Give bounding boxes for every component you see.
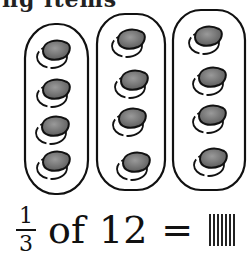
fraction: 1 3 xyxy=(16,205,36,255)
group-2 xyxy=(97,14,165,190)
tally-mark xyxy=(229,214,231,246)
fraction-denominator: 3 xyxy=(19,231,33,255)
tally-mark xyxy=(233,214,235,246)
of-word: of xyxy=(48,208,85,252)
tally-mark xyxy=(225,214,227,246)
equals-sign: = xyxy=(161,208,193,252)
equation: 1 3 of 12 = xyxy=(16,200,235,260)
group-1 xyxy=(25,24,88,194)
group-3 xyxy=(173,10,245,190)
total-number: 12 xyxy=(99,208,147,252)
tally-mark xyxy=(213,214,215,246)
grouped-leaves-illustration xyxy=(0,0,248,200)
tally-mark xyxy=(221,214,223,246)
fraction-numerator: 1 xyxy=(16,205,36,231)
tally-marks-answer xyxy=(209,214,235,246)
tally-mark xyxy=(217,214,219,246)
tally-mark xyxy=(209,214,211,246)
